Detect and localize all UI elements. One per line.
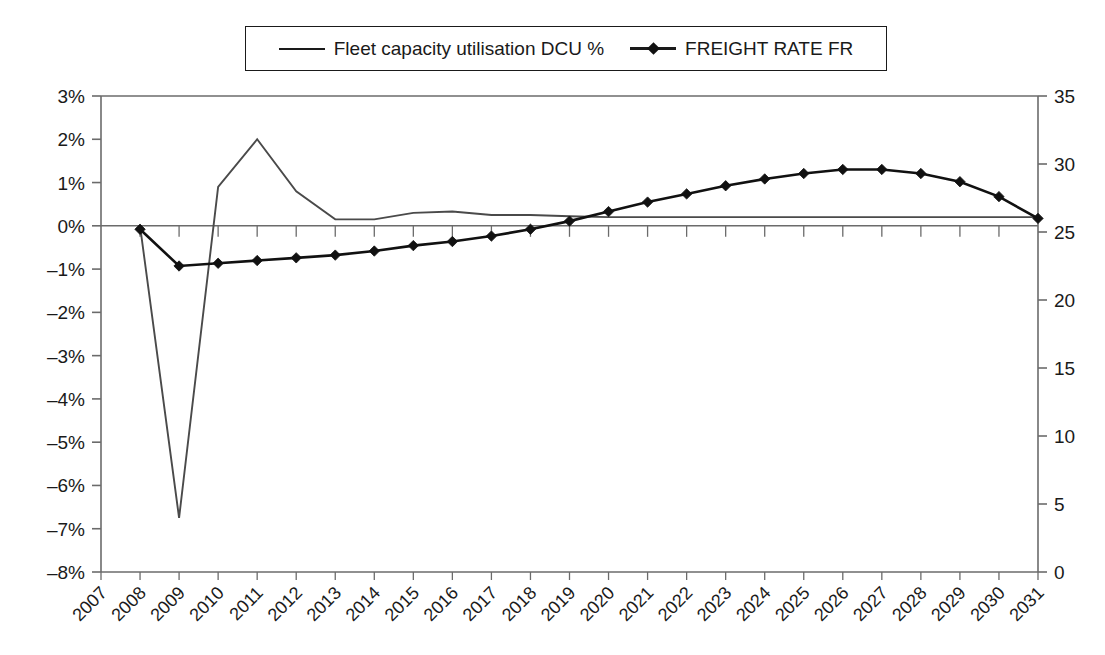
series-marker-diamond — [447, 236, 457, 246]
series-marker-diamond — [1033, 213, 1043, 223]
x-tick-label: 2025 — [771, 583, 813, 625]
series-marker-diamond — [916, 168, 926, 178]
series-marker-diamond — [799, 168, 809, 178]
series-marker-diamond — [369, 246, 379, 256]
x-tick-label: 2009 — [146, 583, 188, 625]
left-tick-label: –7% — [47, 519, 85, 540]
x-tick-label: 2024 — [732, 583, 774, 625]
x-tick-label: 2022 — [654, 583, 696, 625]
x-tick-label: 2019 — [537, 583, 579, 625]
left-tick-label: –4% — [47, 389, 85, 410]
left-tick-label: –6% — [47, 475, 85, 496]
right-tick-label: 20 — [1054, 290, 1075, 311]
series-marker-diamond — [603, 206, 613, 216]
x-tick-label: 2031 — [1005, 583, 1047, 625]
left-tick-label: 1% — [58, 173, 86, 194]
series-marker-diamond — [408, 240, 418, 250]
left-tick-label: 0% — [58, 216, 86, 237]
x-tick-label: 2008 — [107, 583, 149, 625]
series-marker-diamond — [330, 250, 340, 260]
x-tick-label: 2021 — [615, 583, 657, 625]
chart-container: Fleet capacity utilisation DCU % FREIGHT… — [0, 0, 1105, 655]
series-dcu — [140, 139, 1038, 518]
left-tick-label: –3% — [47, 346, 85, 367]
right-tick-label: 30 — [1054, 154, 1075, 175]
x-tick-label: 2020 — [576, 583, 618, 625]
series-marker-diamond — [252, 255, 262, 265]
left-tick-label: 3% — [58, 86, 86, 107]
x-tick-label: 2023 — [693, 583, 735, 625]
series-marker-diamond — [760, 174, 770, 184]
series-marker-diamond — [681, 189, 691, 199]
series-marker-diamond — [838, 164, 848, 174]
x-tick-label: 2026 — [810, 583, 852, 625]
x-tick-label: 2030 — [966, 583, 1008, 625]
left-tick-label: –2% — [47, 302, 85, 323]
x-tick-label: 2016 — [420, 583, 462, 625]
x-tick-label: 2013 — [303, 583, 345, 625]
series-line — [140, 139, 1038, 518]
series-marker-diamond — [564, 216, 574, 226]
x-tick-label: 2017 — [459, 583, 501, 625]
right-tick-label: 35 — [1054, 86, 1075, 107]
chart-plot: 3%2%1%0%–1%–2%–3%–4%–5%–6%–7%–8%35302520… — [0, 0, 1105, 655]
x-tick-label: 2014 — [342, 583, 384, 625]
x-tick-label: 2028 — [888, 583, 930, 625]
x-tick-label: 2007 — [68, 583, 110, 625]
right-tick-label: 5 — [1054, 494, 1065, 515]
left-tick-label: 2% — [58, 129, 86, 150]
series-marker-diamond — [642, 197, 652, 207]
x-tick-label: 2015 — [381, 583, 423, 625]
x-tick-label: 2010 — [185, 583, 227, 625]
left-tick-label: –8% — [47, 562, 85, 583]
x-tick-label: 2012 — [264, 583, 306, 625]
series-marker-diamond — [213, 258, 223, 268]
x-tick-label: 2027 — [849, 583, 891, 625]
series-marker-diamond — [720, 181, 730, 191]
x-tick-label: 2018 — [498, 583, 540, 625]
right-tick-label: 15 — [1054, 358, 1075, 379]
series-marker-diamond — [955, 176, 965, 186]
series-marker-diamond — [994, 191, 1004, 201]
x-tick-label: 2011 — [225, 583, 267, 625]
series-marker-diamond — [486, 231, 496, 241]
right-tick-label: 25 — [1054, 222, 1075, 243]
left-tick-label: –1% — [47, 259, 85, 280]
right-tick-label: 0 — [1054, 562, 1065, 583]
series-marker-diamond — [877, 164, 887, 174]
left-tick-label: –5% — [47, 432, 85, 453]
x-tick-label: 2029 — [927, 583, 969, 625]
series-marker-diamond — [291, 253, 301, 263]
right-tick-label: 10 — [1054, 426, 1075, 447]
